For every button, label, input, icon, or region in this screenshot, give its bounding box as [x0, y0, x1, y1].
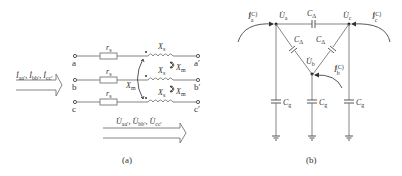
ground-capacitor-b — [307, 100, 317, 136]
phase-line-a — [73, 51, 199, 59]
caption-a: (a) — [122, 155, 132, 165]
terminal-b: b — [72, 82, 77, 92]
svg-text:Xm: Xm — [175, 63, 186, 73]
resistor-c — [100, 99, 117, 105]
resistor-label-b: rs — [106, 67, 112, 77]
mutual-coupling-ac: Xm — [125, 59, 144, 99]
mutual-coupling-bc: Xm — [170, 86, 186, 97]
voltage-drop-arrow: U̇aa′, U̇bb′, U̇cc′ — [103, 117, 186, 143]
ground-icon-b — [308, 136, 316, 140]
inductor-a — [148, 54, 173, 56]
resistor-label-a: rs — [106, 43, 112, 53]
ground-icon-a — [272, 136, 280, 140]
delta-capacitor-label-cb: CΔ — [316, 35, 325, 45]
self-reactance-label-a: Xs — [157, 42, 166, 52]
panel-a: İaa′, İbb′, İcc′ — [15, 42, 201, 165]
phase-line-b — [73, 75, 199, 83]
caption-b: (b) — [306, 155, 317, 165]
ground-icon-c — [345, 136, 353, 140]
resistor-a — [100, 53, 117, 59]
svg-text:Xm: Xm — [125, 81, 136, 91]
ground-capacitor-label-a: Cg — [283, 98, 291, 108]
self-reactance-label-b: Xs — [157, 66, 166, 76]
svg-text:Xm: Xm — [175, 87, 186, 97]
ground-capacitor-label-c: Cg — [356, 98, 364, 108]
voltage-drop-label: U̇aa′, U̇bb′, U̇cc′ — [116, 117, 163, 127]
svg-text:İb(C): İb(C) — [333, 64, 344, 76]
current-arrow-b: İb(C) — [314, 64, 344, 88]
phase-line-c — [73, 97, 199, 105]
mutual-coupling-ab: Xm — [170, 62, 186, 73]
terminal-a-prime: a′ — [194, 58, 200, 68]
ground-capacitor-label-b: Cg — [319, 98, 327, 108]
input-current-label: İaa′, İbb′, İcc′ — [15, 71, 53, 81]
terminal-b-prime: b′ — [194, 82, 201, 92]
delta-capacitor-label-top: CΔ — [307, 9, 316, 19]
self-reactance-label-c: Xs — [157, 88, 166, 98]
ground-capacitor-c — [344, 100, 354, 136]
ground-capacitor-a — [271, 100, 281, 136]
delta-capacitor-label-ab: CΔ — [294, 35, 303, 45]
terminal-c-prime: c′ — [194, 104, 200, 114]
resistor-b — [100, 77, 117, 83]
resistor-label-c: rs — [106, 89, 112, 99]
current-arrow-c: İc(C) — [351, 11, 390, 42]
svg-text:İa(C): İa(C) — [247, 11, 257, 23]
voltage-c-label: U̇c — [343, 11, 352, 21]
voltage-a-label: U̇a — [279, 11, 288, 21]
inductor-b — [148, 78, 173, 80]
terminal-a: a — [72, 58, 76, 68]
input-current-arrow: İaa′, İbb′, İcc′ — [15, 71, 62, 96]
panel-b: İa(C) İc(C) İb(C) U̇a U̇c U̇b CΔ CΔ CΔ C… — [238, 9, 390, 165]
terminal-c: c — [72, 104, 76, 114]
inductor-c — [148, 100, 173, 102]
current-arrow-a: İa(C) — [238, 11, 274, 42]
voltage-b-label: U̇b — [306, 57, 315, 67]
svg-text:İc(C): İc(C) — [371, 11, 381, 23]
circuit-diagram: İaa′, İbb′, İcc′ — [0, 0, 402, 176]
